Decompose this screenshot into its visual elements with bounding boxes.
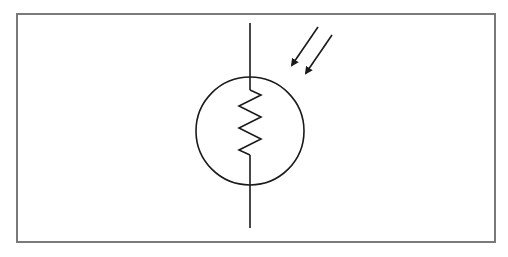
resistor-zigzag — [239, 90, 261, 155]
light-arrows-icon — [292, 27, 332, 73]
photoresistor-symbol — [0, 0, 508, 257]
